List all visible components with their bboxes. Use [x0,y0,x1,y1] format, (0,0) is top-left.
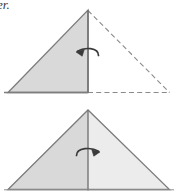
step-top-group [4,10,170,93]
step-top-dashed-half [88,11,170,93]
step-bottom-group [4,110,174,191]
dashed-hypotenuse-top [88,11,170,93]
origami-fold-figure: er. [0,0,174,192]
solid-triangle-top [8,10,88,93]
caption-text-fragment: er. [0,0,10,12]
fold-diagram-svg [0,0,174,192]
